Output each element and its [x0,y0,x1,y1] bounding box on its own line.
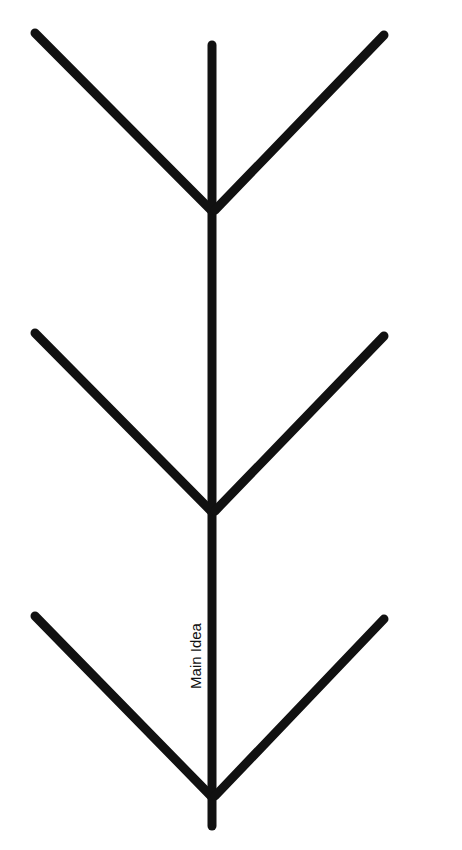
branch-top-left [35,33,211,210]
branch-bottom-right [215,619,384,796]
branch-top-right [215,35,384,210]
spine-label: Main Idea [187,623,204,689]
branch-middle-right [215,336,384,511]
branch-middle-left [35,333,211,511]
branch-bottom-left [35,616,211,796]
fishbone-diagram [0,0,462,850]
